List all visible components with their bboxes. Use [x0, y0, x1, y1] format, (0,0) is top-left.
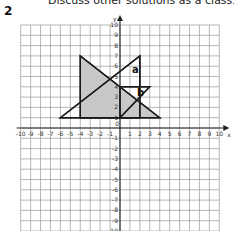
y-tick-label: 5 [114, 73, 118, 80]
x-tick-label: -10 [16, 130, 26, 137]
y-tick-label: -8 [112, 206, 118, 213]
x-tick-label: 10 [215, 130, 223, 137]
x-tick-label: 8 [198, 130, 202, 137]
x-tick-label: 5 [168, 130, 172, 137]
x-tick-label: 6 [178, 130, 182, 137]
coordinate-grid-diagram: ab -10-9-8-7-6-5-4-3-2-11234567891010987… [0, 0, 234, 231]
x-tick-label: 2 [138, 130, 142, 137]
y-tick-label: 10 [110, 21, 118, 28]
y-tick-label: 8 [114, 42, 118, 49]
y-axis-label: y [113, 15, 117, 23]
x-tick-label: -9 [28, 130, 34, 137]
y-tick-label: 4 [114, 83, 118, 90]
y-tick-label: 9 [114, 31, 118, 38]
x-tick-label: 9 [207, 130, 211, 137]
y-tick-label: -3 [112, 155, 118, 162]
y-tick-label: 7 [114, 52, 118, 59]
triangle-a-label: a [132, 64, 139, 75]
x-tick-label: 4 [158, 130, 162, 137]
y-tick-label: 2 [114, 103, 118, 110]
x-tick-label: -4 [77, 130, 83, 137]
y-tick-label: -5 [112, 176, 118, 183]
y-tick-label: -7 [112, 196, 118, 203]
y-tick-label: 3 [114, 93, 118, 100]
x-tick-label: -6 [57, 130, 63, 137]
y-tick-label: -2 [112, 145, 118, 152]
origin-label: 0 [115, 120, 119, 127]
x-axis-label: x [227, 131, 231, 138]
x-tick-label: -8 [38, 130, 44, 137]
triangle-b-label: b [137, 87, 144, 98]
y-tick-label: -9 [112, 217, 118, 224]
x-tick-label: 7 [188, 130, 192, 137]
y-tick-label: -6 [112, 186, 118, 193]
x-tick-label: 3 [148, 130, 152, 137]
x-tick-label: -5 [67, 130, 73, 137]
x-tick-label: -3 [87, 130, 93, 137]
x-tick-label: -2 [97, 130, 103, 137]
y-tick-label: -4 [112, 165, 118, 172]
y-tick-label: 6 [114, 62, 118, 69]
x-tick-label: -7 [47, 130, 53, 137]
y-tick-label: -1 [112, 134, 118, 141]
x-tick-label: 1 [128, 130, 132, 137]
y-tick-label: -10 [108, 227, 118, 231]
tick-labels: -10-9-8-7-6-5-4-3-2-11234567891010987654… [16, 15, 232, 231]
axes [17, 15, 230, 231]
